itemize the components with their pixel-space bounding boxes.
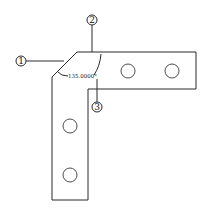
hole-1 bbox=[121, 64, 135, 78]
hole-4 bbox=[63, 168, 77, 182]
callout-3-label: 3 bbox=[94, 102, 100, 112]
hole-2 bbox=[165, 64, 179, 78]
technical-drawing: 135.0000° 1 2 3 bbox=[0, 0, 207, 211]
hole-3 bbox=[63, 119, 77, 133]
callout-2-label: 2 bbox=[89, 15, 95, 25]
angle-dimension-text: 135.0000° bbox=[68, 73, 97, 79]
angle-arc-left bbox=[58, 72, 68, 76]
callout-1-label: 1 bbox=[18, 56, 24, 66]
